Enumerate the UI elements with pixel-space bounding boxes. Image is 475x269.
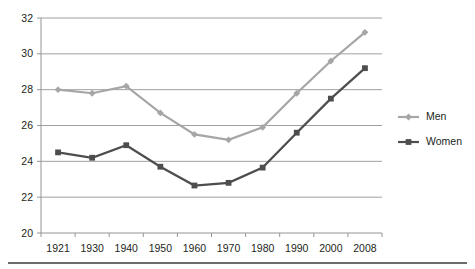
series-line-men [58, 32, 365, 140]
x-tick-label: 1921 [46, 242, 70, 254]
data-point-square [406, 139, 412, 145]
series-women [55, 65, 368, 188]
y-tick-label: 20 [21, 227, 33, 239]
x-tick-label: 1960 [183, 242, 207, 254]
x-tick-label: 1950 [149, 242, 173, 254]
x-tick-label: 2008 [353, 242, 377, 254]
legend-label: Women [426, 135, 462, 147]
data-point-diamond [405, 114, 412, 121]
y-tick-label: 22 [21, 191, 33, 203]
data-point-square [328, 96, 334, 102]
data-series [55, 29, 369, 188]
y-tick-label: 28 [21, 83, 33, 95]
y-tick-label: 30 [21, 47, 33, 59]
data-point-square [294, 130, 300, 136]
line-chart: 20222426283032 1921193019401950196019701… [0, 0, 475, 269]
data-point-square [123, 142, 129, 148]
data-point-square [192, 183, 198, 189]
data-point-square [226, 180, 232, 186]
x-tick-label: 1990 [285, 242, 309, 254]
series-line-women [58, 68, 365, 185]
y-tick-label: 32 [21, 12, 33, 24]
data-point-square [89, 155, 95, 161]
data-point-square [260, 165, 266, 171]
data-point-diamond [225, 136, 232, 143]
legend-label: Men [426, 110, 447, 122]
y-tick-label: 26 [21, 119, 33, 131]
gridlines [41, 18, 382, 197]
x-tick-labels: 1921193019401950196019701980199020002008 [46, 242, 376, 254]
x-tick-label: 1940 [115, 242, 139, 254]
series-men [55, 29, 369, 143]
data-point-diamond [89, 90, 96, 97]
legend-item-women[interactable]: Women [398, 135, 462, 147]
data-point-square [362, 65, 368, 71]
x-tick-label: 1980 [251, 242, 275, 254]
data-point-square [55, 149, 61, 155]
x-tick-label: 1970 [217, 242, 241, 254]
x-axis [41, 233, 382, 237]
data-point-diamond [55, 86, 62, 93]
y-tick-labels: 20222426283032 [21, 12, 33, 239]
chart-container: 20222426283032 1921193019401950196019701… [0, 0, 475, 269]
y-tick-label: 24 [21, 155, 33, 167]
chart-legend: MenWomen [398, 110, 462, 147]
x-tick-label: 2000 [319, 242, 343, 254]
data-point-square [157, 164, 163, 170]
x-tick-label: 1930 [80, 242, 104, 254]
y-axis [37, 18, 41, 233]
legend-item-men[interactable]: Men [398, 110, 447, 122]
